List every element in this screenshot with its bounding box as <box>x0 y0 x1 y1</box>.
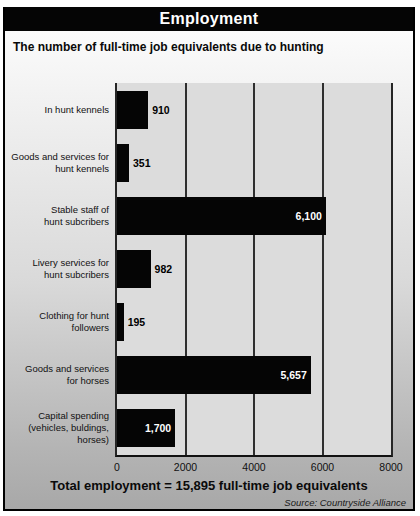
value-label: 910 <box>152 104 170 116</box>
value-label: 5,657 <box>281 369 311 381</box>
page-title: Employment <box>159 10 258 28</box>
bar-row: In hunt kennels 910 <box>5 83 413 136</box>
category-label: Livery services for hunt subcribers <box>5 257 109 281</box>
value-label: 6,100 <box>296 210 326 222</box>
bar: 351 <box>117 144 129 182</box>
bar: 195 <box>117 303 124 341</box>
bar: 5,657 <box>117 356 311 394</box>
bar-chart: In hunt kennels 910 Goods and services f… <box>5 83 413 477</box>
bar: 1,700 <box>117 409 175 447</box>
category-label: Stable staff of hunt subcribers <box>5 204 109 228</box>
category-label: Goods and services for horses <box>5 363 109 387</box>
source-credit: Source: Countryside Alliance <box>284 497 406 508</box>
infographic-frame: Employment The number of full-time job e… <box>3 7 415 511</box>
x-axis: 0 2000 4000 6000 8000 <box>117 459 391 475</box>
bar: 910 <box>117 91 148 129</box>
category-label: In hunt kennels <box>5 104 109 116</box>
category-label: Capital spending (vehicles, buldings, ho… <box>5 410 109 446</box>
category-label: Clothing for hunt followers <box>5 310 109 334</box>
x-tick: 6000 <box>311 461 334 473</box>
x-tick: 2000 <box>174 461 197 473</box>
bar-rows: In hunt kennels 910 Goods and services f… <box>5 83 413 455</box>
x-tick: 4000 <box>242 461 265 473</box>
bar-row: Stable staff of hunt subcribers 6,100 <box>5 189 413 242</box>
category-label: Goods and services for hunt kennels <box>5 151 109 175</box>
bar-row: Goods and services for horses 5,657 <box>5 349 413 402</box>
value-label: 982 <box>155 263 173 275</box>
value-label: 351 <box>133 157 151 169</box>
bar-row: Livery services for hunt subcribers 982 <box>5 242 413 295</box>
x-tick: 0 <box>114 461 120 473</box>
chart-subtitle: The number of full-time job equivalents … <box>13 40 405 54</box>
value-label: 195 <box>128 316 146 328</box>
bar-row: Capital spending (vehicles, buldings, ho… <box>5 402 413 455</box>
x-tick: 8000 <box>379 461 402 473</box>
bar: 982 <box>117 250 151 288</box>
chart-content: The number of full-time job equivalents … <box>5 31 413 509</box>
bar-row: Clothing for hunt followers 195 <box>5 296 413 349</box>
bar: 6,100 <box>117 197 326 235</box>
bar-row: Goods and services for hunt kennels 351 <box>5 136 413 189</box>
total-employment-text: Total employment = 15,895 full-time job … <box>5 478 413 493</box>
title-bar: Employment <box>5 7 413 31</box>
value-label: 1,700 <box>145 422 175 434</box>
